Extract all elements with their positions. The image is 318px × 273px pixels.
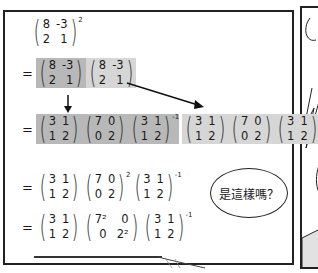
speech-bubble: 是這樣嗎？ — [210, 168, 288, 218]
speech-bubble-text: 是這樣嗎？ — [219, 185, 279, 202]
ground-sketch-icon — [0, 0, 318, 273]
